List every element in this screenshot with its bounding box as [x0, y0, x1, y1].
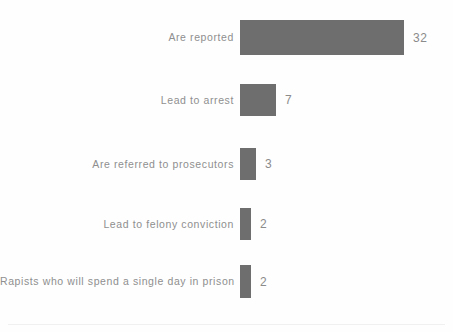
- chart-row: Rapists who will spend a single day in p…: [0, 265, 453, 298]
- bar-value-label: 7: [276, 94, 292, 106]
- chart-row: Lead to arrest 7: [0, 84, 453, 116]
- bar-category-label: Are referred to prosecutors: [0, 159, 240, 170]
- bar-value-label: 32: [404, 32, 427, 44]
- bar-lead-to-felony-conviction: [240, 208, 251, 240]
- bar-value-label: 2: [251, 218, 267, 230]
- bar-rapists-single-day-in-prison: [240, 265, 251, 298]
- bar-are-reported: [240, 20, 404, 55]
- bar-category-label: Lead to felony conviction: [0, 219, 240, 230]
- chart-row: Are referred to prosecutors 3: [0, 148, 453, 180]
- chart-row: Lead to felony conviction 2: [0, 208, 453, 240]
- bar-category-label: Rapists who will spend a single day in p…: [0, 276, 240, 287]
- bar-are-referred-to-prosecutors: [240, 148, 256, 180]
- chart-row: Are reported 32: [0, 20, 453, 55]
- bar-category-label: Are reported: [0, 32, 240, 43]
- bar-chart: Are reported 32 Lead to arrest 7 Are ref…: [0, 0, 453, 332]
- bar-category-label: Lead to arrest: [0, 95, 240, 106]
- footer-divider: [8, 324, 445, 325]
- bar-value-label: 3: [256, 158, 272, 170]
- bar-value-label: 2: [251, 276, 267, 288]
- bar-lead-to-arrest: [240, 84, 276, 116]
